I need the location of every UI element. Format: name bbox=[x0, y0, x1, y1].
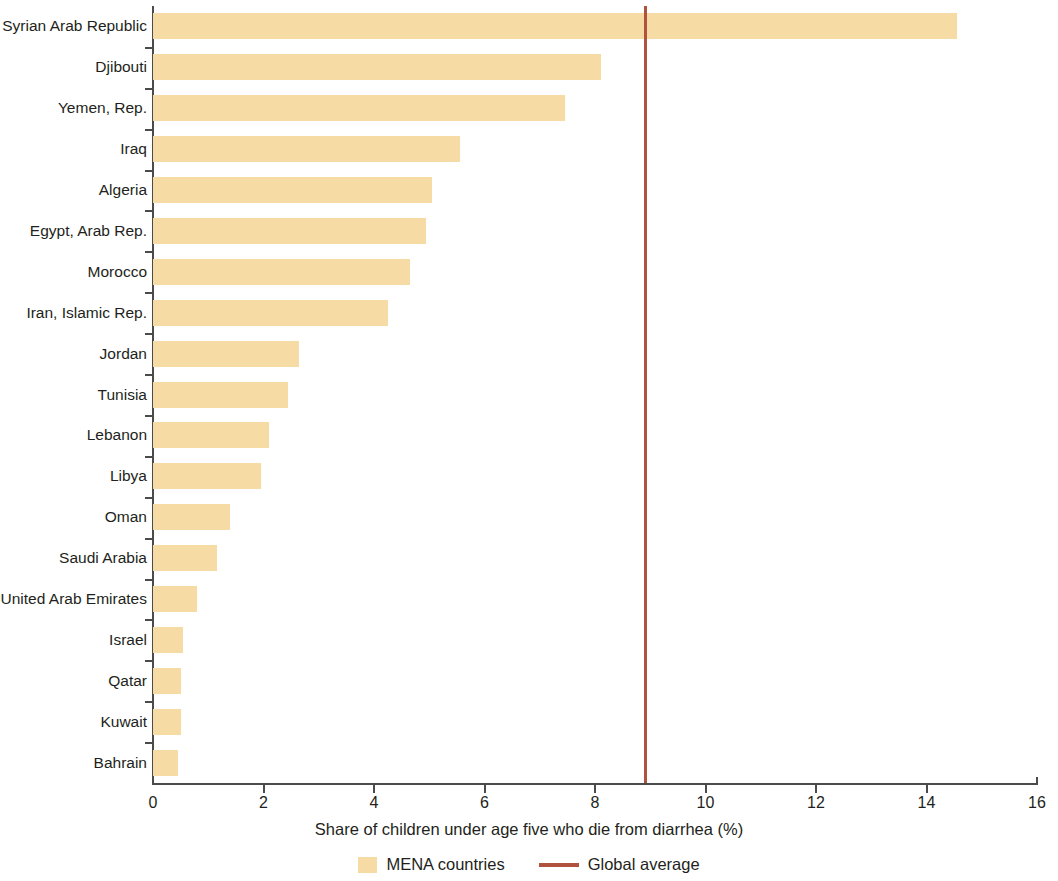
y-axis-tick bbox=[145, 47, 153, 49]
bar-row bbox=[153, 545, 1037, 571]
y-axis-tick bbox=[145, 415, 153, 417]
x-axis-tick-label-14: 14 bbox=[918, 794, 936, 812]
bar-row bbox=[153, 341, 1037, 367]
y-axis-tick bbox=[145, 251, 153, 253]
y-axis-tick bbox=[145, 619, 153, 621]
bar-row bbox=[153, 463, 1037, 489]
bar-row bbox=[153, 586, 1037, 612]
x-axis-tick-label-0: 0 bbox=[149, 794, 158, 812]
y-axis-tick bbox=[145, 129, 153, 131]
y-axis-tick bbox=[145, 210, 153, 212]
bar-row bbox=[153, 668, 1037, 694]
bar-row bbox=[153, 13, 1037, 39]
y-axis-label-egypt-arab-rep: Egypt, Arab Rep. bbox=[0, 223, 147, 239]
y-axis-label-lebanon: Lebanon bbox=[0, 427, 147, 443]
bar-kuwait bbox=[153, 709, 181, 735]
y-axis-label-kuwait: Kuwait bbox=[0, 714, 147, 730]
y-axis-label-tunisia: Tunisia bbox=[0, 387, 147, 403]
legend-swatch-line-icon bbox=[539, 863, 579, 867]
y-axis-tick bbox=[145, 292, 153, 294]
y-axis-category-labels: Syrian Arab RepublicDjiboutiYemen, Rep.I… bbox=[0, 6, 147, 783]
y-axis-tick bbox=[145, 660, 153, 662]
x-axis-tick-label-6: 6 bbox=[480, 794, 489, 812]
y-axis-tick bbox=[145, 374, 153, 376]
x-axis-tick-label-12: 12 bbox=[807, 794, 825, 812]
y-axis-tick bbox=[145, 701, 153, 703]
bar-row bbox=[153, 259, 1037, 285]
legend-label-mena-countries: MENA countries bbox=[386, 855, 504, 874]
x-axis-title: Share of children under age five who die… bbox=[0, 820, 1058, 839]
bar-saudi-arabia bbox=[153, 545, 217, 571]
chart-figure: Syrian Arab RepublicDjiboutiYemen, Rep.I… bbox=[0, 0, 1058, 881]
bar-syrian-arab-republic bbox=[153, 13, 957, 39]
y-axis-label-libya: Libya bbox=[0, 468, 147, 484]
y-axis-label-algeria: Algeria bbox=[0, 182, 147, 198]
bar-united-arab-emirates bbox=[153, 586, 197, 612]
x-axis-tick-label-2: 2 bbox=[259, 794, 268, 812]
x-axis-tick-label-8: 8 bbox=[591, 794, 600, 812]
bar-row bbox=[153, 218, 1037, 244]
bar-row bbox=[153, 54, 1037, 80]
x-axis-right-endcap bbox=[1036, 777, 1038, 785]
y-axis-label-israel: Israel bbox=[0, 632, 147, 648]
bar-row bbox=[153, 95, 1037, 121]
x-axis-tick bbox=[815, 785, 817, 793]
y-axis-label-yemen-rep: Yemen, Rep. bbox=[0, 100, 147, 116]
x-axis-left-endcap bbox=[152, 777, 154, 785]
bar-row bbox=[153, 627, 1037, 653]
global-average-reference-line bbox=[644, 6, 647, 785]
bar-yemen-rep bbox=[153, 95, 565, 121]
legend-item-global-average: Global average bbox=[539, 855, 700, 874]
bar-row bbox=[153, 504, 1037, 530]
y-axis-label-iraq: Iraq bbox=[0, 141, 147, 157]
legend-item-mena-countries: MENA countries bbox=[358, 855, 504, 874]
y-axis-label-syrian-arab-republic: Syrian Arab Republic bbox=[0, 18, 147, 34]
y-axis-tick bbox=[145, 742, 153, 744]
x-axis-tick-label-10: 10 bbox=[697, 794, 715, 812]
bar-morocco bbox=[153, 259, 410, 285]
x-axis-tick bbox=[484, 785, 486, 793]
bar-row bbox=[153, 136, 1037, 162]
y-axis-tick bbox=[145, 456, 153, 458]
legend-label-global-average: Global average bbox=[588, 855, 700, 874]
x-axis-tick bbox=[594, 785, 596, 793]
y-axis-tick bbox=[145, 88, 153, 90]
bar-row bbox=[153, 300, 1037, 326]
chart-legend: MENA countries Global average bbox=[0, 855, 1058, 874]
y-axis-tick bbox=[145, 579, 153, 581]
bar-iraq bbox=[153, 136, 460, 162]
y-axis-tick bbox=[145, 497, 153, 499]
bar-israel bbox=[153, 627, 183, 653]
y-axis-label-iran-islamic-rep: Iran, Islamic Rep. bbox=[0, 305, 147, 321]
bar-qatar bbox=[153, 668, 181, 694]
bar-algeria bbox=[153, 177, 432, 203]
y-axis-tick bbox=[145, 333, 153, 335]
y-axis-label-united-arab-emirates: United Arab Emirates bbox=[0, 591, 147, 607]
x-axis-tick-label-16: 16 bbox=[1028, 794, 1046, 812]
x-axis-tick-label-4: 4 bbox=[370, 794, 379, 812]
bar-djibouti bbox=[153, 54, 601, 80]
bar-row bbox=[153, 750, 1037, 776]
bar-tunisia bbox=[153, 382, 288, 408]
x-axis-tick bbox=[263, 785, 265, 793]
bar-jordan bbox=[153, 341, 299, 367]
y-axis-label-saudi-arabia: Saudi Arabia bbox=[0, 550, 147, 566]
y-axis-label-oman: Oman bbox=[0, 509, 147, 525]
x-axis-tick bbox=[926, 785, 928, 793]
y-axis-label-morocco: Morocco bbox=[0, 264, 147, 280]
y-axis-label-djibouti: Djibouti bbox=[0, 59, 147, 75]
y-axis-tick bbox=[145, 170, 153, 172]
legend-swatch-box-icon bbox=[358, 857, 377, 873]
y-axis-tick bbox=[145, 538, 153, 540]
bar-oman bbox=[153, 504, 230, 530]
x-axis-tick bbox=[373, 785, 375, 793]
bar-row bbox=[153, 422, 1037, 448]
bar-bahrain bbox=[153, 750, 178, 776]
bar-row bbox=[153, 382, 1037, 408]
bar-libya bbox=[153, 463, 261, 489]
plot-area bbox=[153, 6, 1037, 783]
bar-iran-islamic-rep bbox=[153, 300, 388, 326]
bar-row bbox=[153, 177, 1037, 203]
bar-egypt-arab-rep bbox=[153, 218, 426, 244]
bar-lebanon bbox=[153, 422, 269, 448]
